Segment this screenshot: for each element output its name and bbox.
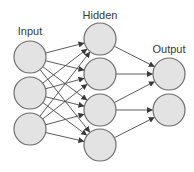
output-node-o2 <box>153 94 185 126</box>
edge-i3-to-h4 <box>46 133 84 142</box>
neural-network-diagram: InputHiddenOutput <box>0 0 194 172</box>
hidden-node-h4 <box>84 129 116 161</box>
edge-h1-to-o1 <box>114 46 154 66</box>
edge-h4-to-o2 <box>114 117 154 137</box>
input-node-i3 <box>14 113 46 145</box>
hidden-node-h3 <box>84 94 116 126</box>
edge-i2-to-h4 <box>43 103 87 136</box>
edge-i2-to-h1 <box>43 49 87 83</box>
hidden-layer-label: Hidden <box>83 9 118 21</box>
edge-h3-to-o1 <box>114 82 154 103</box>
hidden-node-h1 <box>84 23 116 55</box>
hidden-node-h2 <box>84 58 116 90</box>
edge-i1-to-h2 <box>46 61 84 70</box>
input-node-i2 <box>14 77 46 109</box>
edge-i1-to-h1 <box>46 43 85 53</box>
input-node-i1 <box>14 41 46 73</box>
input-layer-label: Input <box>18 25 42 37</box>
output-layer-label: Output <box>152 43 185 55</box>
edge-i3-to-h2 <box>43 84 87 119</box>
output-node-o1 <box>153 58 185 90</box>
edge-i3-to-h3 <box>45 114 84 124</box>
